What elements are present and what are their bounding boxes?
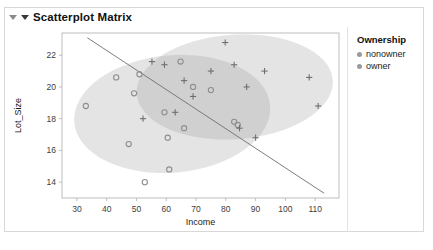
y-tick-label: 20 <box>47 82 57 92</box>
panel-collapse-triangle-down-icon[interactable] <box>9 15 17 20</box>
legend-marker-owner-icon <box>357 64 362 69</box>
x-tick-label: 110 <box>308 204 322 214</box>
legend-label-owner: owner <box>366 61 391 71</box>
x-tick-label: 40 <box>102 204 112 214</box>
legend-divider <box>347 27 348 232</box>
legend: Ownership nonowner owner <box>357 34 423 72</box>
legend-item-owner[interactable]: owner <box>357 60 423 72</box>
x-tick-label: 80 <box>221 204 231 214</box>
panel-menu-triangle-down-icon[interactable] <box>21 15 29 20</box>
x-tick-label: 90 <box>251 204 261 214</box>
legend-item-nonowner[interactable]: nonowner <box>357 48 423 60</box>
y-axis-title: Lot_Size <box>13 98 23 133</box>
x-tick-label: 50 <box>132 204 142 214</box>
x-tick-label: 70 <box>191 204 201 214</box>
y-tick-label: 14 <box>47 177 57 187</box>
legend-marker-nonowner-icon <box>357 52 362 57</box>
plot-area: 141618202230405060708090100110IncomeLot_… <box>5 26 347 233</box>
x-axis-title: Income <box>186 217 216 227</box>
x-tick-label: 60 <box>162 204 172 214</box>
panel-title: Scatterplot Matrix <box>33 11 132 23</box>
panel-title-bar: Scatterplot Matrix <box>5 8 423 26</box>
scatter-plot-svg: 141618202230405060708090100110IncomeLot_… <box>5 26 347 233</box>
y-tick-label: 16 <box>47 145 57 155</box>
y-tick-label: 18 <box>47 114 57 124</box>
scatterplot-matrix-screenshot: Scatterplot Matrix 141618202230405060708… <box>0 0 433 250</box>
x-tick-label: 30 <box>72 204 82 214</box>
y-tick-label: 22 <box>47 50 57 60</box>
scatterplot-panel: Scatterplot Matrix 141618202230405060708… <box>4 7 424 232</box>
x-tick-label: 100 <box>278 204 292 214</box>
legend-label-nonowner: nonowner <box>366 49 406 59</box>
legend-title: Ownership <box>357 34 423 45</box>
